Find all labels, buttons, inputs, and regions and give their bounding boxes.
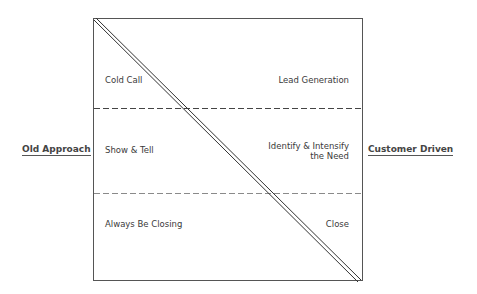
lead-generation-label: Lead Generation	[278, 75, 349, 85]
identify-intensify-label: Identify & Intensify the Need	[268, 141, 349, 161]
customer-driven-label: Customer Driven	[368, 144, 453, 156]
always-be-closing-label: Always Be Closing	[105, 219, 182, 229]
identify-intensify-line1: Identify & Intensify	[268, 141, 349, 151]
identify-intensify-line2: the Need	[268, 151, 349, 161]
old-approach-label: Old Approach	[22, 144, 91, 156]
cold-call-label: Cold Call	[105, 75, 142, 85]
show-and-tell-label: Show & Tell	[105, 145, 154, 155]
close-label: Close	[326, 219, 349, 229]
